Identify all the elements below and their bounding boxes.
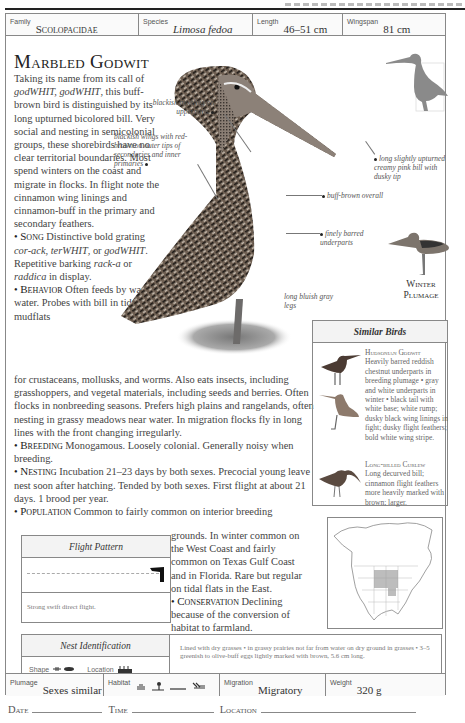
- top-rule: [5, 8, 465, 10]
- winter-label-line1: Winter: [386, 279, 456, 290]
- annotation-bill: long slightly upturned creamy pink bill …: [374, 154, 452, 181]
- song-heading: Song: [20, 230, 43, 242]
- hudsonian-godwit-icon: [317, 347, 363, 387]
- nest-location-label: Location: [87, 666, 113, 673]
- song-call: terWHIT: [51, 245, 88, 256]
- winter-plumage: Winter Plumage: [386, 224, 456, 283]
- similar-bird-name: Long-billed Curlew: [365, 460, 425, 469]
- population-heading: Population: [20, 505, 71, 517]
- time-field[interactable]: [132, 704, 214, 713]
- grassland-icon: [170, 681, 186, 691]
- annotation-text: long bluish gray legs: [284, 292, 333, 310]
- size-silhouette-icon: [384, 51, 452, 121]
- breeding-paragraph: • Breeding Monogamous. Loosely colonial.…: [14, 439, 314, 465]
- similar-birds-heading: Similar Birds: [313, 321, 447, 343]
- flight-pattern-description: Strong swift direct flight.: [22, 593, 170, 610]
- location-field[interactable]: [261, 704, 416, 713]
- song-call: cor-ack: [14, 245, 46, 256]
- ground-scrape-nest-icon: [53, 665, 75, 673]
- length-label: Length: [257, 18, 278, 25]
- date-field[interactable]: [32, 704, 102, 713]
- migration-value: Migratory: [258, 684, 303, 696]
- song-call: raddica: [14, 271, 46, 282]
- flight-path-line: [27, 573, 159, 574]
- weight-value: 320 g: [357, 684, 382, 696]
- winter-godwit-icon: [386, 224, 456, 279]
- similar-bird-hudsonian: Hudsonian Godwit Heavily barred reddish …: [365, 348, 449, 442]
- weight-label: Weight: [330, 679, 352, 686]
- annotation-text: buff-brown overall: [327, 191, 383, 200]
- ground-location-icon: [118, 665, 132, 673]
- wingspan-label: Wingspan: [347, 18, 378, 25]
- bullet-icon: •: [14, 231, 18, 242]
- winter-label-line2: Plumage: [386, 290, 456, 301]
- call-text: godWHIT, godWHIT: [14, 86, 100, 97]
- winter-plumage-label: Winter Plumage: [386, 279, 456, 301]
- bullet-icon: •: [14, 440, 18, 451]
- migration-cell: Migration Migratory: [220, 674, 326, 696]
- info-bar: Family Scolopacidae Species Limosa fedoa…: [6, 14, 445, 36]
- leader-line: [286, 195, 322, 196]
- marsh-icon: [192, 681, 206, 691]
- nesting-paragraph: • Nesting Incubation 21–23 days by both …: [14, 465, 314, 505]
- bullet-icon: •: [171, 596, 175, 607]
- population-continued-column: grounds. In winter common on the West Co…: [171, 529, 311, 635]
- similar-bird-description: Heavily barred reddish chestnut underpar…: [365, 357, 448, 441]
- annotation-text: blackish mottling on upperparts: [153, 98, 214, 116]
- nesting-heading: Nesting: [20, 465, 56, 477]
- weight-cell: Weight 320 g: [326, 674, 445, 696]
- annotation-underparts: finely barred underparts: [320, 229, 380, 247]
- annotation-overall: buff-brown overall: [322, 191, 432, 200]
- annotation-text: long slightly upturned creamy pink bill …: [374, 154, 445, 181]
- annotation-text: blackish wings with red-brown on outer t…: [114, 132, 187, 168]
- flight-pattern-heading: Flight Pattern: [22, 536, 170, 558]
- pointer-dot-icon: [374, 158, 377, 161]
- date-label: Date: [8, 704, 28, 715]
- bottom-info-bar: Plumage Sexes similar Habitat Migration …: [6, 673, 445, 696]
- time-label: Time: [108, 704, 127, 715]
- range-map: [327, 517, 443, 629]
- breeding-heading: Breeding: [20, 439, 62, 451]
- plumage-label: Plumage: [10, 679, 38, 686]
- annotation-mottling: blackish mottling on upperparts: [146, 98, 214, 116]
- habitat-cell: Habitat: [104, 674, 220, 696]
- habitat-label: Habitat: [108, 679, 130, 686]
- species-cell: Species Limosa fedoa: [139, 14, 253, 36]
- bullet-icon: •: [14, 466, 18, 477]
- population-paragraph: • Population Common to fairly common on …: [14, 505, 314, 518]
- length-cell: Length 46–51 cm: [253, 14, 343, 36]
- species-card: Family Scolopacidae Species Limosa fedoa…: [5, 13, 446, 695]
- pointer-dot-icon: [320, 233, 323, 236]
- family-label: Family: [10, 18, 31, 25]
- wingspan-cell: Wingspan 81 cm: [343, 14, 445, 36]
- plumage-value: Sexes similar: [43, 684, 102, 696]
- similar-birds-box: Similar Birds Hudsonian Godwit Heavily b…: [312, 320, 448, 506]
- leader-line: [365, 141, 375, 155]
- annotation-legs: long bluish gray legs: [284, 292, 334, 310]
- long-billed-curlew-icon: [317, 461, 363, 501]
- population-text: Common to fairly common on interior bree…: [71, 506, 272, 517]
- bullet-icon: •: [14, 506, 18, 517]
- similar-bird-curlew: Long-billed Curlew Long decurved bill; c…: [365, 460, 449, 507]
- bullet-icon: •: [14, 284, 18, 295]
- pointer-dot-icon: [211, 111, 214, 114]
- plumage-cell: Plumage Sexes similar: [6, 674, 104, 696]
- shore-icon: [152, 681, 164, 691]
- family-value: Scolopacidae: [36, 23, 98, 35]
- similar-bird-description: Long decurved bill; cinnamon flight feat…: [365, 469, 444, 506]
- flight-pattern-box: Flight Pattern Strong swift direct fligh…: [21, 535, 171, 623]
- north-america-map-icon: [328, 518, 442, 628]
- flight-pattern-diagram: [22, 558, 170, 593]
- length-value: 46–51 cm: [284, 23, 328, 35]
- song-text: , or: [88, 245, 104, 256]
- pointer-dot-icon: [322, 195, 325, 198]
- nest-identification-heading: Nest Identification: [22, 635, 169, 657]
- flying-bird-icon: [150, 562, 168, 584]
- song-text: in display.: [46, 271, 91, 282]
- species-value: Limosa fedoa: [173, 23, 233, 35]
- wingspan-value: 81 cm: [383, 23, 410, 35]
- lake-icon: [136, 682, 146, 692]
- migration-label: Migration: [224, 679, 253, 686]
- pointer-dot-icon: [145, 163, 148, 166]
- behavior-text-continued: for crustaceans, mollusks, and worms. Al…: [14, 373, 314, 439]
